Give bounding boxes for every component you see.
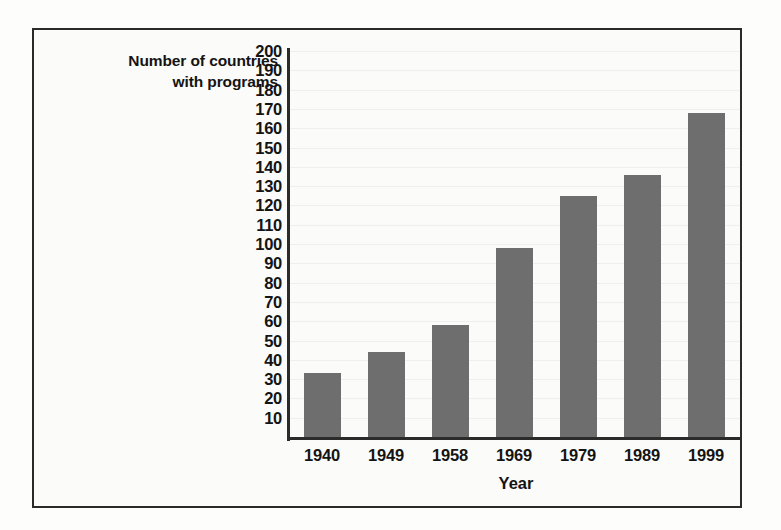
bar-chart: Number of countries with programs 200190… (34, 30, 744, 510)
x-axis-tick-label: 1949 (353, 446, 419, 465)
y-axis-tick-label: 100 (214, 236, 282, 252)
y-axis-tick-label: 120 (214, 197, 282, 213)
bar (688, 113, 725, 437)
y-axis-tick-label: 50 (214, 333, 282, 349)
y-axis-tick-label: 110 (214, 217, 282, 233)
y-axis-tick-label: 140 (214, 159, 282, 175)
y-axis-tick-label: 40 (214, 352, 282, 368)
page-background: Number of countries with programs 200190… (0, 0, 781, 530)
y-axis-tick-label: 20 (214, 390, 282, 406)
y-axis-tick-label: 90 (214, 255, 282, 271)
y-axis-tick-label: 30 (214, 371, 282, 387)
bar (496, 248, 533, 437)
bar (432, 325, 469, 437)
bar (368, 352, 405, 437)
y-axis-tick-label: 10 (214, 410, 282, 426)
y-axis-tick-label: 200 (214, 43, 282, 59)
x-axis-tick-label: 1940 (289, 446, 355, 465)
y-axis-tick-label: 180 (214, 82, 282, 98)
y-axis-tick-label: 190 (214, 62, 282, 78)
y-axis-tick-label: 150 (214, 140, 282, 156)
bar (304, 373, 341, 437)
bar (624, 175, 661, 437)
y-axis-tick-label: 160 (214, 120, 282, 136)
y-axis-tick-label: 80 (214, 275, 282, 291)
x-axis-tick-label: 1999 (673, 446, 739, 465)
y-axis-tick-label: 70 (214, 294, 282, 310)
figure-frame: Number of countries with programs 200190… (32, 28, 742, 508)
x-axis-tick-label: 1958 (417, 446, 483, 465)
x-axis-tick-label: 1989 (609, 446, 675, 465)
y-axis-tick-label: 170 (214, 101, 282, 117)
x-axis-tick-label: 1969 (481, 446, 547, 465)
y-axis-tick-label: 60 (214, 313, 282, 329)
bar-series: 1940194919581969197919891999 (290, 30, 742, 510)
y-axis-tick-label: 130 (214, 178, 282, 194)
bar (560, 196, 597, 437)
x-axis-title: Year (290, 474, 742, 493)
x-axis-tick-label: 1979 (545, 446, 611, 465)
